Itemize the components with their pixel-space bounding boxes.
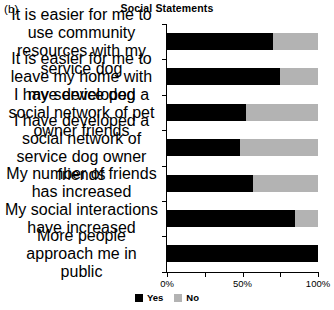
bar-segment-no <box>295 210 318 227</box>
chart-legend: Yes No <box>0 292 334 303</box>
x-tick-0 <box>167 272 168 277</box>
bar-segment-no <box>253 175 318 192</box>
x-tick-label-50: 50% <box>220 278 266 289</box>
category-label-4: My number of friends has increased <box>0 166 163 201</box>
bar-segment-yes <box>167 104 246 121</box>
bar-segment-no <box>280 68 318 85</box>
figure-panel-b: (b) Social Statements It is easier for m… <box>0 0 334 310</box>
x-tick-75 <box>280 272 281 277</box>
legend-item-no: No <box>174 292 199 303</box>
bar-segment-yes <box>167 68 280 85</box>
bar-row-2 <box>167 95 318 130</box>
x-tick-25 <box>205 272 206 277</box>
bar-segment-no <box>240 139 319 156</box>
legend-label-yes: Yes <box>147 292 163 303</box>
bar-segment-yes <box>167 245 318 262</box>
bar-row-4 <box>167 166 318 201</box>
bar-row-5 <box>167 201 318 236</box>
category-label-text: More people approach me in public <box>0 227 163 281</box>
bar-segment-no <box>246 104 319 121</box>
bar-segment-yes <box>167 139 240 156</box>
x-tick-label-0: 0% <box>144 278 190 289</box>
legend-item-yes: Yes <box>135 292 163 303</box>
category-label-text: My number of friends has increased <box>0 165 163 201</box>
bar-row-1 <box>167 59 318 94</box>
bar-segment-no <box>273 33 318 50</box>
x-tick-50 <box>243 272 244 277</box>
bar-segment-yes <box>167 175 253 192</box>
category-label-3: I have developed a social network of ser… <box>0 130 163 165</box>
category-axis-labels: It is easier for me to use community res… <box>0 24 164 272</box>
bar-segment-yes <box>167 33 273 50</box>
bar-row-6 <box>167 236 318 271</box>
x-tick-100 <box>318 272 319 277</box>
bar-row-0 <box>167 24 318 59</box>
legend-swatch-icon <box>135 294 143 302</box>
category-label-6: More people approach me in public <box>0 236 163 271</box>
legend-label-no: No <box>186 292 199 303</box>
legend-swatch-icon <box>174 294 182 302</box>
bar-segment-yes <box>167 210 295 227</box>
bar-row-3 <box>167 130 318 165</box>
plot-area <box>167 24 318 272</box>
x-tick-label-100: 100% <box>295 278 334 289</box>
